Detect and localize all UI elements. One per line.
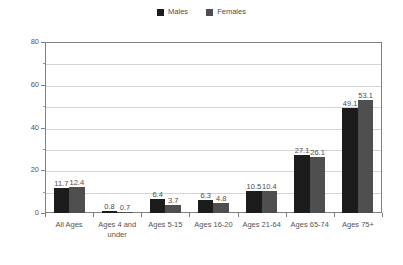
bar-rect[interactable] [150, 199, 166, 213]
bar-value-label: 0.8 [104, 202, 114, 211]
bar-value-label: 6.4 [152, 190, 162, 199]
bar-males[interactable]: 11.7 [54, 42, 70, 213]
y-axis-tick-label: 20 [31, 166, 39, 174]
x-axis: All AgesAges 4 and underAges 5-15Ages 16… [45, 213, 382, 263]
x-axis-tick [93, 213, 94, 217]
bar-group: 0.80.7 [93, 42, 141, 213]
bar-rect[interactable] [358, 100, 374, 214]
bar-value-label: 53.1 [358, 91, 373, 100]
bar-value-label: 49.1 [343, 99, 358, 108]
bar-group: 27.126.1 [286, 42, 334, 213]
legend-swatch-icon [206, 9, 213, 16]
bar-males[interactable]: 27.1 [294, 42, 310, 213]
y-axis-tick-label: 0 [35, 209, 39, 217]
bar-value-label: 12.4 [70, 178, 85, 187]
bar-rect[interactable] [165, 205, 181, 213]
bar-females[interactable]: 12.4 [69, 42, 85, 213]
bar-rect[interactable] [294, 155, 310, 213]
bar-rect[interactable] [198, 200, 214, 214]
bar-rect[interactable] [262, 191, 278, 213]
bar-group: 6.34.8 [189, 42, 237, 213]
bar-group: 11.712.4 [45, 42, 93, 213]
bar-males[interactable]: 6.3 [198, 42, 214, 213]
x-axis-tick [189, 213, 190, 217]
bar-value-label: 10.4 [262, 182, 277, 191]
bar-rect[interactable] [213, 203, 229, 213]
bar-males[interactable]: 0.8 [102, 42, 118, 213]
bar-females[interactable]: 10.4 [262, 42, 278, 213]
y-axis-tick-label: 40 [31, 124, 39, 132]
chart-legend: MalesFemales [0, 8, 403, 16]
bar-rect[interactable] [69, 187, 85, 214]
bar-rect[interactable] [54, 188, 70, 213]
x-axis-tick-label: Ages 75+ [331, 220, 385, 230]
y-axis: 020406080 [0, 42, 45, 214]
x-axis-tick [286, 213, 287, 217]
bar-value-label: 4.8 [216, 194, 226, 203]
x-axis-tick-label: Ages 4 and under [90, 220, 144, 239]
bar-group: 6.43.7 [141, 42, 189, 213]
bar-value-label: 11.7 [54, 179, 68, 188]
bar-rect[interactable] [342, 108, 358, 213]
bar-value-label: 26.1 [310, 148, 325, 157]
bar-group: 10.510.4 [238, 42, 286, 213]
bar-males[interactable]: 10.5 [246, 42, 262, 213]
x-axis-tick-label: Ages 65-74 [283, 220, 337, 230]
x-axis-tick-label: Ages 16-20 [186, 220, 240, 230]
bar-value-label: 6.3 [201, 191, 211, 200]
legend-item-males: Males [157, 8, 188, 16]
bar-males[interactable]: 6.4 [150, 42, 166, 213]
x-axis-tick-label: Ages 21-64 [235, 220, 289, 230]
bar-value-label: 10.5 [247, 182, 262, 191]
legend-label: Females [217, 8, 246, 16]
bar-females[interactable]: 4.8 [213, 42, 229, 213]
x-axis-tick [141, 213, 142, 217]
x-axis-tick [238, 213, 239, 217]
legend-item-females: Females [206, 8, 246, 16]
y-axis-tick-label: 80 [31, 38, 39, 46]
bar-females[interactable]: 3.7 [165, 42, 181, 213]
x-axis-tick [334, 213, 335, 217]
legend-label: Males [168, 8, 188, 16]
bar-group: 49.153.1 [334, 42, 382, 213]
x-axis-tick [45, 213, 46, 217]
x-axis-tick-label: Ages 5-15 [138, 220, 192, 230]
x-axis-tick [382, 213, 383, 217]
x-axis-tick-label: All Ages [42, 220, 96, 230]
bar-females[interactable]: 0.7 [117, 42, 133, 213]
bars-layer: 11.712.40.80.76.43.76.34.810.510.427.126… [45, 42, 382, 213]
bar-value-label: 0.7 [120, 203, 130, 212]
bar-females[interactable]: 53.1 [358, 42, 374, 213]
bar-males[interactable]: 49.1 [342, 42, 358, 213]
bar-chart: MalesFemales 020406080 11.712.40.80.76.4… [0, 0, 403, 265]
bar-value-label: 27.1 [295, 146, 310, 155]
bar-rect[interactable] [246, 191, 262, 213]
bar-rect[interactable] [310, 157, 326, 213]
y-axis-tick-label: 60 [31, 81, 39, 89]
legend-swatch-icon [157, 9, 164, 16]
bar-females[interactable]: 26.1 [310, 42, 326, 213]
bar-value-label: 3.7 [168, 196, 178, 205]
